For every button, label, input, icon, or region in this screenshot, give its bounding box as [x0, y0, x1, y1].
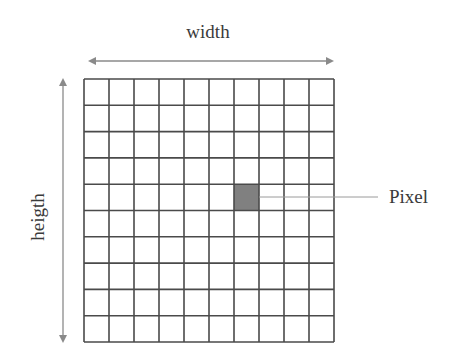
pixel-grid-diagram: width heigth Pixel	[0, 0, 463, 364]
height-label: heigth	[27, 193, 48, 241]
pixel-grid	[84, 79, 334, 342]
pixel-label: Pixel	[389, 186, 428, 207]
width-label: width	[186, 21, 230, 42]
highlighted-pixel	[234, 184, 259, 210]
